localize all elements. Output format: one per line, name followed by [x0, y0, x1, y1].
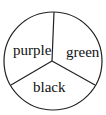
section-label-purple: purple	[13, 42, 52, 58]
section-label-black: black	[33, 79, 66, 95]
spinner-diagram: purple green black	[0, 0, 106, 115]
section-label-green: green	[66, 44, 100, 60]
